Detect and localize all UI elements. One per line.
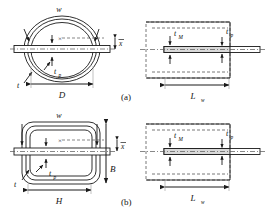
label-Lw-b: L <box>189 193 195 203</box>
technical-diagram: × w t p t D x <box>0 0 268 217</box>
label-tM-sub-b: M <box>178 136 184 142</box>
label-tp-sub-b: p <box>53 174 57 180</box>
label-Lw-a: L <box>189 91 195 101</box>
label-B: B <box>110 164 116 174</box>
centroid-marker-b: × <box>58 137 62 145</box>
label-xbar-b: x <box>120 142 125 151</box>
label-w-b: w <box>56 111 62 120</box>
panel-label-b: (b) <box>121 197 132 207</box>
figure-container: × w t p t D x <box>0 0 268 217</box>
label-w-a: w <box>56 5 62 14</box>
panel-label-a: (a) <box>121 92 131 102</box>
label-tp-side-sub-a: p <box>230 32 234 38</box>
label-xbar-a: x <box>118 39 123 48</box>
label-Lw-sub-a: w <box>201 97 205 103</box>
label-D: D <box>58 90 66 100</box>
label-Lw-sub-b: w <box>201 199 205 205</box>
label-tp-sub-a: p <box>58 72 62 78</box>
label-tp-side-sub-b: p <box>230 134 234 140</box>
centroid-marker-a: × <box>58 35 62 43</box>
label-tM-sub-a: M <box>178 34 184 40</box>
label-H: H <box>55 196 63 206</box>
